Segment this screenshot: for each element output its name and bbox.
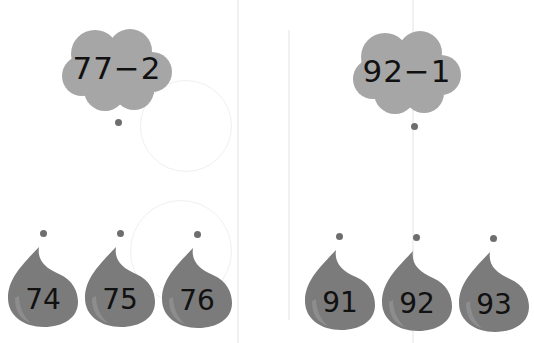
answer-drop[interactable]: 74	[7, 246, 79, 328]
expression-label: 92−1	[351, 27, 463, 115]
expression-cloud: 77−2	[60, 24, 174, 112]
expression-label: 77−2	[60, 24, 174, 112]
background-trace	[288, 30, 290, 320]
answer-value: 91	[304, 279, 376, 325]
answer-drop[interactable]: 91	[304, 249, 376, 331]
expression-cloud: 92−1	[351, 27, 463, 115]
background-trace	[237, 0, 239, 343]
connector-dot[interactable]	[413, 234, 420, 241]
answer-drop[interactable]: 76	[161, 247, 233, 329]
connector-dot[interactable]	[194, 231, 201, 238]
answer-drop[interactable]: 93	[458, 251, 530, 333]
connector-dot[interactable]	[336, 233, 343, 240]
connector-dot[interactable]	[40, 230, 47, 237]
answer-value: 93	[458, 281, 530, 327]
connector-dot[interactable]	[411, 123, 418, 130]
answer-value: 76	[161, 277, 233, 323]
answer-drop[interactable]: 92	[381, 250, 453, 332]
answer-drop[interactable]: 75	[84, 246, 156, 328]
answer-value: 75	[84, 276, 156, 322]
connector-dot[interactable]	[117, 230, 124, 237]
connector-dot[interactable]	[490, 235, 497, 242]
answer-value: 92	[381, 280, 453, 326]
answer-value: 74	[7, 276, 79, 322]
connector-dot[interactable]	[115, 119, 122, 126]
